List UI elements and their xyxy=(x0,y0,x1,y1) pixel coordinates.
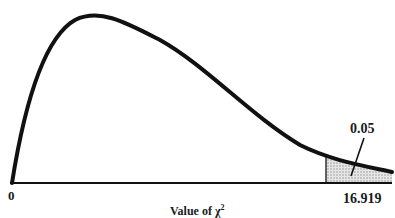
tail-area-label: 0.05 xyxy=(350,121,375,136)
density-curve xyxy=(12,16,392,183)
origin-tick-label: 0 xyxy=(8,188,15,203)
x-axis-label: Value of χ2 xyxy=(170,203,224,218)
critical-tick-label: 16.919 xyxy=(343,191,382,206)
chi-square-chart: 0.05 0 16.919 Value of χ2 xyxy=(0,0,395,218)
